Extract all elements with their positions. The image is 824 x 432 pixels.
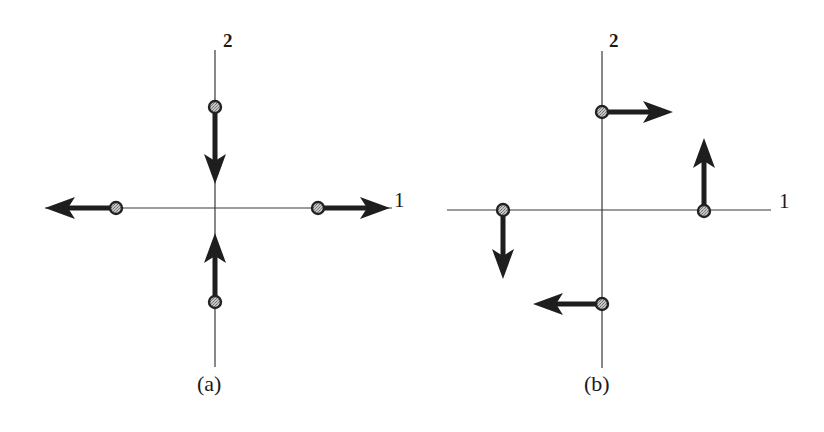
- panel-a: [45, 50, 392, 367]
- panel-b-top-displacement-arrow: [602, 101, 673, 123]
- panel-b-caption: (b): [584, 373, 610, 395]
- panel-b-axis-1-label: 1: [779, 191, 790, 212]
- panel-a-axis-2-label: 2: [223, 31, 233, 50]
- panel-a-bottom-displacement-arrow: [204, 233, 226, 302]
- panel-b-left-displacement-arrow: [492, 210, 514, 279]
- panel-b-atom-left: [497, 204, 509, 216]
- panel-a-atom-left: [110, 202, 122, 214]
- panel-a-axis-1-label: 1: [394, 190, 405, 211]
- panel-a-caption: (a): [197, 373, 221, 395]
- panel-a-top-displacement-arrow: [204, 107, 226, 184]
- panel-b: [447, 51, 771, 368]
- panel-b-atom-right: [698, 205, 710, 217]
- panel-a-atom-bottom: [209, 296, 221, 308]
- panel-b-bottom-displacement-arrow: [533, 293, 602, 315]
- panel-b-right-displacement-arrow: [693, 138, 715, 211]
- panel-a-right-displacement-arrow: [318, 197, 390, 219]
- displacement-diagram-figure: [0, 0, 824, 432]
- panel-a-atom-right: [312, 202, 324, 214]
- panel-b-axis-2-label: 2: [609, 31, 619, 50]
- panel-a-atom-top: [209, 101, 221, 113]
- panel-b-atom-top: [596, 106, 608, 118]
- panel-b-atom-bottom: [596, 298, 608, 310]
- panel-a-left-displacement-arrow: [45, 197, 116, 219]
